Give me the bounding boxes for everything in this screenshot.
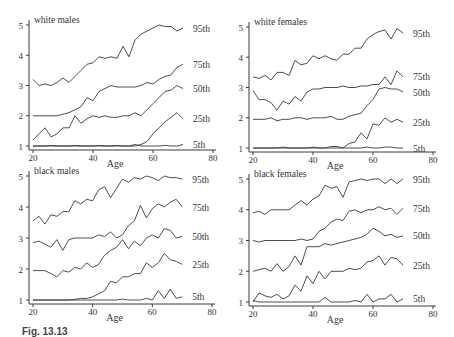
series-label-5th: 5th [413,144,425,154]
series-line-75th [253,207,403,242]
x-tick-label: 60 [148,307,158,317]
x-tick-label: 80 [208,307,218,317]
series-line-50th [33,86,183,140]
series-label-50th: 50th [192,232,209,242]
series-line-50th [253,88,403,121]
caption-text: Fig. 13.13 [22,326,68,337]
x-tick-label: 20 [249,155,259,165]
series-line-95th [253,29,403,80]
y-tick-label: 4 [19,51,24,61]
series-label-95th: 95th [413,175,430,185]
series-line-50th [253,228,403,271]
y-tick-label: 3 [19,234,24,244]
y-tick-label: 1 [19,296,24,306]
series-label-95th: 95th [413,29,430,39]
y-tick-label: 1 [239,144,244,154]
x-tick-label: 20 [249,309,259,319]
series-label-50th: 50th [413,231,430,241]
series-line-95th [33,25,183,86]
series-label-75th: 75th [192,203,209,213]
y-tick-label: 5 [19,21,24,31]
y-tick-label: 2 [239,113,244,123]
series-line-5th [33,145,183,147]
x-tick-label: 40 [309,309,319,319]
series-label-95th: 95th [192,175,209,185]
x-tick-label: 40 [309,155,319,165]
series-label-50th: 50th [413,88,430,98]
series-label-5th: 5th [413,294,425,304]
series-label-50th: 50th [193,84,210,94]
x-axis-label: Age [327,160,344,171]
series-line-95th [33,176,182,224]
y-tick-label: 4 [239,205,244,215]
x-tick-label: 20 [29,153,39,163]
panel-title: black males [34,166,79,176]
x-tick-label: 40 [89,153,99,163]
y-tick-label: 1 [239,298,244,308]
series-label-95th: 95th [193,24,210,34]
panel-title: white females [254,17,307,27]
series-label-25th: 25th [192,260,209,270]
x-tick-label: 80 [429,155,439,165]
x-tick-label: 60 [149,153,159,163]
series-label-75th: 75th [193,60,210,70]
x-tick-label: 60 [369,309,379,319]
figure-caption: Fig. 13.13 [22,326,68,337]
y-tick-label: 4 [19,203,24,213]
series-label-25th: 25th [193,114,210,124]
chart-panel-white-males: 1234520406080Agewhite males95th75th50th2… [19,15,219,169]
series-line-25th [33,113,183,146]
series-line-75th [33,199,182,250]
y-tick-label: 5 [239,175,244,185]
series-line-25th [253,118,403,148]
series-line-95th [253,179,403,214]
series-label-25th: 25th [413,261,430,271]
x-axis-label: Age [106,312,123,323]
y-tick-label: 5 [239,23,244,33]
y-tick-label: 2 [19,111,24,121]
series-label-75th: 75th [413,204,430,214]
y-tick-label: 3 [239,83,244,93]
series-label-5th: 5th [192,292,204,302]
x-axis-label: Age [107,158,124,169]
series-label-5th: 5th [193,140,205,150]
series-line-25th [253,256,403,302]
x-tick-label: 60 [369,155,379,165]
panel-title: white males [34,15,80,25]
x-tick-label: 80 [429,309,439,319]
percentile-chart-figure: 1234520406080Agewhite males95th75th50th2… [0,0,454,337]
panel-title: black females [254,169,307,179]
y-tick-label: 5 [19,172,24,182]
series-line-75th [33,64,183,116]
y-tick-label: 2 [19,265,24,275]
chart-panel-black-females: 1234520406080Ageblack females95th75th50t… [239,169,439,325]
series-line-5th [33,289,182,300]
y-tick-label: 3 [239,236,244,246]
series-line-50th [33,229,182,277]
x-axis-label: Age [327,314,344,325]
series-label-75th: 75th [413,72,430,82]
y-tick-label: 1 [19,142,24,152]
chart-panel-white-females: 1234520406080Agewhite females95th75th50t… [239,17,439,171]
series-label-25th: 25th [413,118,430,128]
chart-panel-black-males: 1234520406080Ageblack males95th75th50th2… [19,166,218,323]
x-tick-label: 40 [88,307,98,317]
y-tick-label: 3 [19,81,24,91]
y-tick-label: 4 [239,53,244,63]
x-tick-label: 20 [29,307,39,317]
series-line-75th [253,71,403,110]
x-tick-label: 80 [209,153,219,163]
y-tick-label: 2 [239,267,244,277]
